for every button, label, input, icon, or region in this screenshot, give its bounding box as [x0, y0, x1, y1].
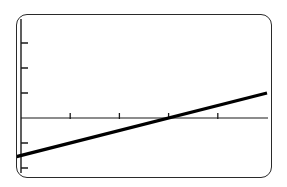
plotted-line-series	[17, 93, 267, 178]
function-plot	[17, 15, 272, 178]
calculator-display-frame: y = 0.5x - 1.5	[16, 14, 272, 178]
y-axis-tick-marks	[21, 43, 28, 168]
calculator-screenshot: y = 0.5x - 1.5	[0, 0, 287, 187]
